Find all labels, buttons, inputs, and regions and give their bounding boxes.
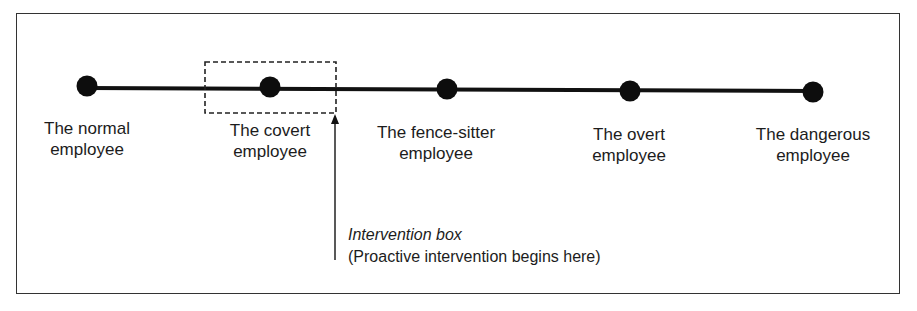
stage-label-overt: The overt employee — [592, 124, 666, 166]
stage-dot-normal — [77, 76, 98, 97]
stage-dot-covert — [260, 77, 281, 98]
stage-label-line2: employee — [399, 144, 473, 163]
intervention-note: Intervention box (Proactive intervention… — [348, 224, 601, 268]
stage-label-line1: The overt — [593, 125, 665, 144]
stage-label-line2: employee — [776, 146, 850, 165]
stage-label-line1: The normal — [44, 119, 130, 138]
intervention-description: (Proactive intervention begins here) — [348, 248, 601, 265]
stage-label-line1: The fence-sitter — [377, 123, 495, 142]
stage-label-fence-sitter: The fence-sitter employee — [377, 122, 495, 164]
stage-label-covert: The covert employee — [230, 120, 310, 162]
stage-label-dangerous: The dangerous employee — [756, 124, 870, 166]
stage-dot-overt — [620, 81, 641, 102]
stage-label-line2: employee — [233, 142, 307, 161]
arrow-up-icon — [331, 114, 339, 124]
stage-label-line2: employee — [592, 146, 666, 165]
stage-label-line1: The covert — [230, 121, 310, 140]
stage-dot-dangerous — [803, 82, 824, 103]
stage-label-normal: The normal employee — [44, 118, 130, 160]
stage-label-line2: employee — [50, 140, 124, 159]
intervention-title: Intervention box — [348, 224, 601, 246]
stage-dot-fence-sitter — [437, 79, 458, 100]
stage-label-line1: The dangerous — [756, 125, 870, 144]
